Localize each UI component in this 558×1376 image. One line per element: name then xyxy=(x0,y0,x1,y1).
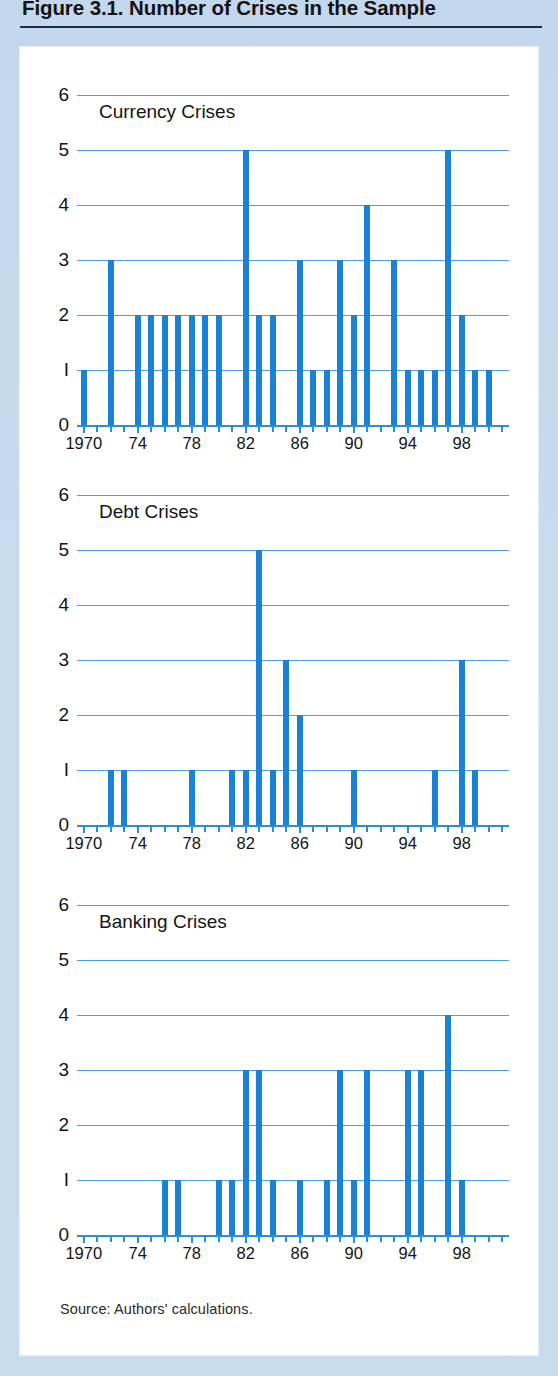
x-tick xyxy=(177,425,179,432)
x-tick-label: 98 xyxy=(453,834,471,853)
x-tick xyxy=(177,1235,179,1242)
bar xyxy=(459,1180,465,1235)
bar xyxy=(148,315,154,425)
x-tick xyxy=(407,825,409,833)
x-tick xyxy=(245,1235,247,1243)
y-tick-label-banking-5: 5 xyxy=(58,949,69,971)
x-tick xyxy=(474,825,476,832)
x-tick xyxy=(366,825,368,832)
x-tick xyxy=(137,425,139,433)
bar xyxy=(432,370,438,425)
y-tick-label-banking-4: 4 xyxy=(58,1004,69,1026)
bar xyxy=(270,770,276,825)
x-tick xyxy=(501,425,503,432)
bar xyxy=(243,150,249,425)
bar xyxy=(472,370,478,425)
x-tick xyxy=(312,1235,314,1242)
x-tick xyxy=(380,1235,382,1242)
y-tick-label-banking-1: I xyxy=(64,1169,69,1191)
x-tick xyxy=(218,1235,220,1242)
x-tick xyxy=(461,425,463,433)
y-tick-label-debt-2: 2 xyxy=(58,704,69,726)
x-tick xyxy=(191,425,193,433)
xticks-debt xyxy=(77,825,509,833)
x-tick-label: 74 xyxy=(129,1244,147,1263)
x-tick xyxy=(434,1235,436,1242)
x-tick xyxy=(299,1235,301,1243)
title-divider xyxy=(20,26,542,28)
bar xyxy=(189,770,195,825)
plot-area-currency: Currency Crises 0I23456 1970747882869094… xyxy=(77,95,509,425)
x-tick xyxy=(461,825,463,833)
bar xyxy=(351,770,357,825)
chart-panel: Currency Crises 0I23456 1970747882869094… xyxy=(20,47,538,1355)
x-tick xyxy=(164,1235,166,1242)
x-tick xyxy=(326,1235,328,1242)
x-tick xyxy=(150,825,152,832)
bar xyxy=(270,315,276,425)
bar xyxy=(351,1180,357,1235)
y-tick-label-debt-3: 3 xyxy=(58,649,69,671)
bar xyxy=(418,1070,424,1235)
y-tick-label-debt-5: 5 xyxy=(58,539,69,561)
bar xyxy=(391,260,397,425)
x-tick xyxy=(285,1235,287,1242)
x-tick-label: 82 xyxy=(237,434,255,453)
x-tick xyxy=(353,425,355,433)
y-tick-label-currency-5: 5 xyxy=(58,139,69,161)
x-tick xyxy=(501,825,503,832)
x-tick xyxy=(231,825,233,832)
bar xyxy=(229,1180,235,1235)
x-tick xyxy=(434,425,436,432)
bar xyxy=(445,1015,451,1235)
bar xyxy=(175,315,181,425)
y-tick-label-debt-1: I xyxy=(64,759,69,781)
y-tick-label-banking-3: 3 xyxy=(58,1059,69,1081)
x-tick-label: 1970 xyxy=(65,1244,102,1263)
x-tick-label: 1970 xyxy=(65,434,102,453)
y-tick-label-banking-6: 6 xyxy=(58,894,69,916)
plot-area-banking: Banking Crises 0I23456 19707478828690949… xyxy=(77,905,509,1235)
x-tick xyxy=(474,1235,476,1242)
x-tick xyxy=(339,1235,341,1242)
x-tick xyxy=(96,1235,98,1242)
x-tick-label: 94 xyxy=(399,1244,417,1263)
x-tick xyxy=(461,1235,463,1243)
x-tick xyxy=(258,425,260,432)
bar xyxy=(256,1070,262,1235)
bar xyxy=(229,770,235,825)
x-tick xyxy=(258,825,260,832)
x-tick-label: 74 xyxy=(129,434,147,453)
x-tick xyxy=(420,425,422,432)
x-tick-label: 86 xyxy=(291,434,309,453)
x-tick-label: 1970 xyxy=(65,834,102,853)
figure-title: Figure 3.1. Number of Crises in the Samp… xyxy=(22,0,542,20)
bar xyxy=(256,550,262,825)
bars-banking xyxy=(77,905,509,1235)
bar xyxy=(472,770,478,825)
x-tick xyxy=(245,825,247,833)
x-tick xyxy=(204,825,206,832)
x-tick xyxy=(123,1235,125,1242)
y-tick-label-debt-6: 6 xyxy=(58,484,69,506)
bar xyxy=(310,370,316,425)
bar xyxy=(121,770,127,825)
x-tick-label: 78 xyxy=(183,834,201,853)
x-tick xyxy=(488,825,490,832)
x-tick xyxy=(204,425,206,432)
x-tick xyxy=(110,425,112,432)
bar xyxy=(364,1070,370,1235)
x-tick xyxy=(83,1235,85,1243)
x-tick xyxy=(420,1235,422,1242)
chart-banking-crises: Banking Crises 0I23456 19707478828690949… xyxy=(20,877,538,1287)
x-tick xyxy=(191,1235,193,1243)
bar xyxy=(364,205,370,425)
x-tick xyxy=(83,825,85,833)
x-tick xyxy=(326,425,328,432)
bars-debt xyxy=(77,495,509,825)
x-tick xyxy=(366,425,368,432)
bar xyxy=(216,1180,222,1235)
x-tick xyxy=(339,825,341,832)
y-tick-label-debt-0: 0 xyxy=(58,814,69,836)
bar xyxy=(135,315,141,425)
